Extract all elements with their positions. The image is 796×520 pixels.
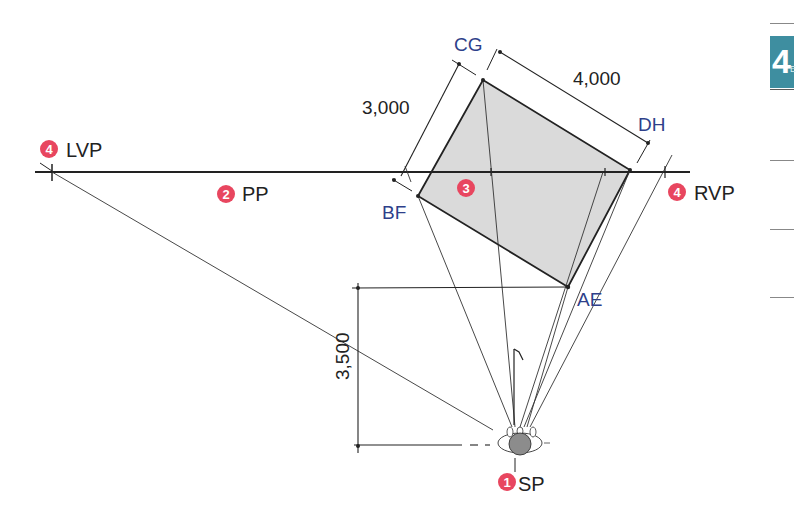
- sight-line-ae2: [527, 287, 568, 427]
- chapter-number: 4: [772, 41, 791, 81]
- dim-ext: [452, 60, 476, 75]
- bf-extension: [405, 166, 411, 182]
- chapter-suffix: E: [790, 64, 796, 74]
- dim-end: [392, 178, 396, 182]
- label-sp: SP: [518, 473, 545, 495]
- lvp-sight-line: [52, 172, 493, 430]
- dim-end: [498, 50, 502, 54]
- object-plan: [418, 80, 630, 287]
- side-rule: [770, 23, 794, 24]
- viewer-icon: [498, 349, 542, 472]
- marker-pp: 2: [217, 185, 235, 203]
- label-rvp: RVP: [694, 182, 735, 204]
- label-lvp: LVP: [66, 139, 102, 161]
- svg-text:1: 1: [503, 475, 510, 490]
- side-rule: [770, 160, 794, 161]
- dim-label-length: 4,000: [573, 68, 621, 89]
- dim-end: [356, 444, 360, 448]
- dim-label-distance: 3,500: [332, 332, 353, 380]
- corner-dot-dh: [628, 168, 632, 172]
- corner-dot-bf: [416, 194, 420, 198]
- marker-sp: 1: [498, 473, 516, 491]
- marker-rvp: 4: [668, 183, 686, 201]
- corner-dot-cg: [481, 78, 485, 82]
- dim-ext: [487, 49, 497, 70]
- side-rule: [770, 297, 794, 298]
- dim-end: [356, 286, 360, 290]
- label-cg: CG: [454, 34, 483, 55]
- svg-text:4: 4: [45, 142, 53, 157]
- dim-end: [457, 62, 461, 66]
- label-ae: AE: [577, 289, 602, 310]
- dim-label-width: 3,000: [362, 97, 410, 118]
- label-dh: DH: [638, 114, 665, 135]
- svg-text:4: 4: [673, 185, 681, 200]
- dim-end: [646, 141, 650, 145]
- chapter-tab[interactable]: 4 E: [770, 36, 794, 88]
- side-rule: [770, 89, 794, 90]
- marker-box: 3: [457, 179, 475, 197]
- label-bf: BF: [382, 202, 406, 223]
- svg-text:2: 2: [222, 187, 229, 202]
- marker-lvp: 4: [40, 140, 58, 158]
- side-rule: [770, 229, 794, 230]
- svg-text:3: 3: [462, 181, 469, 196]
- dim-3500-top: [352, 287, 568, 288]
- label-pp: PP: [242, 183, 269, 205]
